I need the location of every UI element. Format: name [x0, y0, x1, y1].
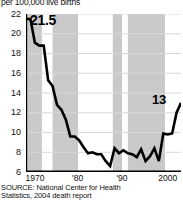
y-axis-tick-label: 12 [11, 108, 21, 117]
y-axis-tick-label: 22 [11, 10, 21, 19]
y-axis-tick-label: 14 [11, 89, 21, 98]
chart-unit-label: per 100,000 live births [1, 0, 80, 7]
y-axis-tick-label: 20 [11, 29, 21, 38]
y-axis-tick-label: 10 [11, 128, 21, 137]
y-axis-tick-label: 16 [11, 69, 21, 78]
y-axis-tick-label: 8 [16, 148, 21, 157]
callout-start-value: 21.5 [30, 12, 56, 28]
x-axis-tick-label: 2000 [158, 173, 177, 183]
y-axis-tick-label: 18 [11, 49, 21, 58]
x-axis-tick-label: '90 [116, 173, 127, 183]
callout-end-value: 13 [152, 92, 166, 107]
source-note: SOURCE: National Center for Health Stati… [1, 184, 183, 201]
y-axis-labels: 2220181614121086 [0, 14, 24, 172]
y-axis-tick-label: 6 [16, 168, 21, 177]
x-axis-tick-label: 1970 [25, 173, 44, 183]
maternal-mortality-chart: per 100,000 live births 2220181614121086… [0, 0, 183, 201]
source-line-2: Statistics, 2004 death report [1, 192, 183, 200]
x-axis-tick-label: '80 [72, 173, 83, 183]
